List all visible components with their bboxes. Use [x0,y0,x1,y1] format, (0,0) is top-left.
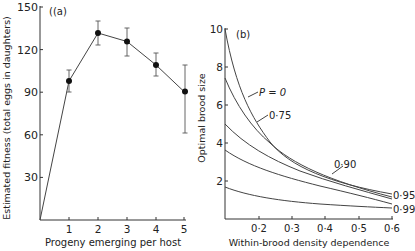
panel-b-ytick-label: 10 [210,23,223,35]
curve-label-p0: P = 0 [259,87,286,98]
panel-a-data-points [66,30,188,95]
panel-b-x-axis-title: Within-brood density dependence [229,237,390,248]
panel-b-ytick-label: 8 [216,61,223,73]
panel-a-ytick-label: 90 [24,86,38,99]
panel-b-ytick-label: 6 [216,99,223,111]
figure: 150 120 90 60 30 1 2 3 4 5 [0,0,415,251]
panel-b: 10 8 6 4 2 0·2 0·3 0·4 0·5 0·6 [196,23,415,248]
curve-label-p095: 0·95 [393,190,415,201]
panel-a-ytick-label: 150 [17,1,38,14]
panel-b-y-axis-title: Optimal brood size [196,73,207,163]
curve-p090 [225,124,392,199]
panel-a-xtick-label: 3 [124,223,131,235]
curve-p095 [225,150,392,204]
panel-a-xtick-label: 5 [181,223,188,235]
panel-b-ytick-label: 2 [216,175,223,187]
panel-b-xtick-label: 0·6 [384,223,400,234]
curve-label-p090: 0·90 [334,159,356,170]
panel-b-xtick-label: 0·2 [251,223,267,234]
panel-a-y-axis-title: Estimated fitness (total eggs in daughte… [1,16,12,220]
panel-b-xtick-label: 0·3 [284,223,300,234]
panel-a-xtick-label: 2 [95,223,102,235]
panel-b-xtick-label: 0·5 [351,223,367,234]
panel-a-x-axis-title: Progeny emerging per host [45,237,181,248]
panel-a-xtick-label: 1 [66,223,73,235]
panel-a-y-ticks: 150 120 90 60 30 [17,1,43,184]
panel-b-xtick-label: 0·4 [317,223,333,234]
curve-p0 [225,29,392,194]
panel-b-ytick-label: 4 [216,137,223,149]
panel-b-label: (b) [236,29,250,40]
panel-a-label: ((a) [49,6,67,17]
panel-a-ytick-label: 30 [24,171,38,184]
curve-label-p075: 0·75 [269,110,291,121]
panel-a-ytick-label: 60 [24,129,38,142]
panel-a-xtick-label: 4 [153,223,160,235]
panel-a: 150 120 90 60 30 1 2 3 4 5 [1,1,188,248]
panel-a-fitness-line [40,33,184,220]
panel-a-ytick-label: 120 [17,44,38,57]
curve-label-p099: 0·99 [393,204,415,215]
